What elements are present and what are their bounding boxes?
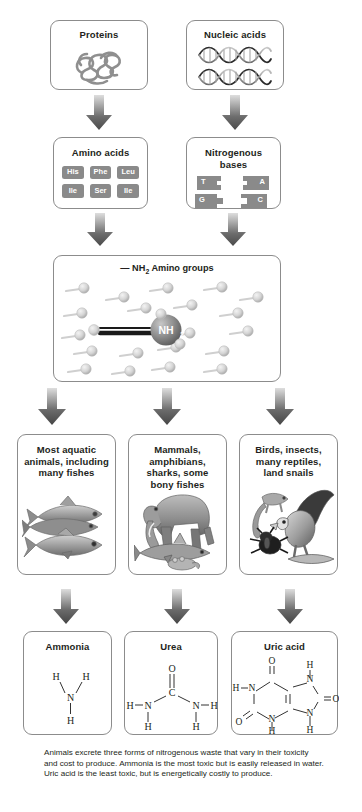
svg-text:N: N [307,708,314,718]
tangled-polypeptide-icon [51,43,147,87]
svg-text:O: O [269,656,276,666]
amino-groups-title: — NH2 Amino groups [54,263,280,275]
waste-label: Ammonia [24,641,111,653]
node-animal-group-mammals[interactable]: Mammals, amphibians, sharks, some bony f… [128,434,227,575]
amino-groups-label: Amino groups [151,263,213,273]
svg-text:N: N [249,683,256,693]
svg-text:O: O [236,717,243,727]
amino-group-molecule-field: NH 2 [54,278,282,381]
amino-groups-formula: NH [132,263,145,273]
svg-text:O: O [168,663,175,674]
node-waste-uric-acid[interactable]: Uric acid [231,631,338,735]
amino-acid-chip: Ser [90,184,112,198]
svg-text:N: N [269,714,276,724]
node-proteins[interactable]: Proteins [50,20,148,90]
waste-label: Urea [125,641,217,653]
svg-text:C: C [169,687,176,698]
svg-text:H: H [144,721,151,732]
highlighted-nh2-molecule: NH 2 [89,309,186,349]
svg-text:H: H [210,700,217,711]
elephant-shark-frog-photo [134,483,224,571]
node-waste-urea[interactable]: Urea O C N N H [124,631,218,735]
svg-text:H: H [52,671,59,682]
svg-text:H: H [307,660,314,670]
caption-text: Animals excrete three forms of nitrogeno… [44,748,324,780]
base-letter: G [195,194,217,205]
svg-text:N: N [307,674,314,684]
base-letter: T [197,176,221,187]
uric-acid-purine-structure: O N H O H N H N O N H [232,654,339,734]
base-piece-T: T [197,176,221,187]
animal-group-label: Birds, insects, many reptiles, land snai… [240,444,337,479]
waste-label: Uric acid [232,641,337,653]
base-letter: C [241,194,267,205]
node-nitrogenous-bases-label: Nitrogenous bases [187,147,280,170]
arrow-birds-to-uric-acid [276,589,304,625]
dna-double-helix-icon [187,43,283,87]
amino-acid-chip: Ile [117,184,139,198]
node-animal-group-birds[interactable]: Birds, insects, many reptiles, land snai… [239,434,338,575]
amino-acid-chip: Ile [62,184,84,198]
node-nitrogenous-bases[interactable]: Nitrogenous bases T A G [186,137,281,209]
arrow-bases-to-amino-groups [219,213,247,247]
arrow-amino-groups-to-birds [265,388,295,426]
animal-group-label: Most aquatic animals, including many fis… [18,444,115,479]
fishes-photo [22,487,113,571]
svg-text:H: H [269,726,276,734]
eagle-lizard-beetle-photo [244,483,335,571]
node-amino-acids-label: Amino acids [54,147,147,159]
svg-text:H: H [126,700,133,711]
svg-text:H: H [82,671,89,682]
arrow-amino-groups-to-aquatic [37,388,67,426]
node-amino-acids[interactable]: Amino acids His Phe Leu Ile Ser Ile [53,137,148,209]
svg-text:2: 2 [180,331,184,338]
NH3-structure: H H N H [24,660,113,730]
arrow-aquatic-to-ammonia [52,589,80,625]
arrow-amino-groups-to-mammals [152,388,182,426]
node-nucleic-acids[interactable]: Nucleic acids [186,20,284,90]
svg-text:O: O [333,694,339,704]
amino-acid-chip: Phe [90,166,112,180]
svg-text:H: H [233,683,240,693]
svg-text:N: N [144,700,151,711]
amino-groups-prefix: — [120,263,129,273]
svg-text:H: H [192,721,199,732]
svg-text:NH: NH [158,324,173,336]
node-proteins-label: Proteins [51,29,147,41]
base-letter: A [239,176,269,187]
arrow-proteins-to-amino-acids [85,95,113,131]
diagram-caption: Animals excrete three forms of nitrogeno… [44,748,324,780]
urea-structure: O C N N H H H H [125,658,219,732]
arrow-amino-acids-to-amino-groups [86,213,114,247]
arrow-nucleic-acids-to-bases [221,95,249,131]
node-amino-groups[interactable]: — NH2 Amino groups [53,255,281,382]
base-puzzle-group: T A G C [187,176,280,216]
base-piece-G: G [195,194,217,205]
diagram-canvas: Proteins Nucleic acids [0,0,362,812]
node-animal-group-aquatic[interactable]: Most aquatic animals, including many fis… [17,434,116,575]
base-piece-C: C [241,194,267,205]
amino-groups-subscript: 2 [145,268,149,275]
svg-text:H: H [307,725,314,734]
svg-text:H: H [67,715,74,726]
svg-text:N: N [192,700,199,711]
base-piece-A: A [239,176,269,187]
amino-acid-chip: His [62,166,84,180]
amino-acid-chip-grid: His Phe Leu Ile Ser Ile [54,166,147,198]
amino-acid-chip: Leu [117,166,139,180]
node-nucleic-acids-label: Nucleic acids [187,29,283,41]
arrow-mammals-to-urea [163,589,191,625]
node-waste-ammonia[interactable]: Ammonia H H N H [23,631,112,735]
svg-text:N: N [67,692,74,703]
